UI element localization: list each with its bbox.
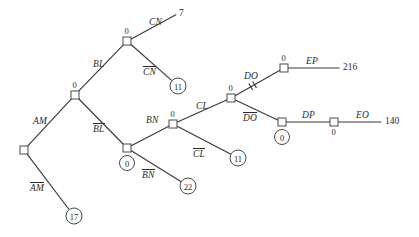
node-value-do: 0: [282, 54, 286, 63]
edge-label-cn-not: CN: [143, 66, 156, 77]
decision-node-root: [20, 146, 28, 154]
terminal-value-t11a: 11: [168, 83, 188, 92]
edge-label-do: DO: [244, 72, 258, 82]
tree-edge-bn-not: [131, 150, 181, 181]
edge-label-cn: CN: [149, 18, 162, 28]
decision-tree-diagram: AMAMBLBLCNCNBNBNCLCLDODOEPDPEO 00000000 …: [0, 0, 419, 237]
node-value-bn: 0: [171, 110, 175, 119]
node-value-blbar: 0: [117, 160, 137, 169]
edge-label-bl: BL: [93, 60, 105, 70]
node-value-dobar: 0: [272, 134, 292, 143]
tree-edge-bl-not: [78, 98, 124, 145]
edge-label-cl-not: CL: [193, 148, 205, 159]
edge-label-bn: BN: [146, 116, 159, 126]
decision-node-dp: [330, 118, 338, 126]
edge-label-do-not: DO: [243, 112, 257, 123]
edge-label-dp: DP: [302, 111, 315, 121]
edge-label-am: AM: [33, 117, 47, 127]
payoff-value-p216: 216: [343, 63, 357, 73]
terminal-value-t11b: 11: [228, 155, 248, 164]
edge-label-am-not: AM: [30, 182, 44, 193]
decision-node-cl: [227, 94, 235, 102]
node-value-dp: 0: [332, 128, 336, 137]
decision-node-bl: [123, 37, 131, 45]
decision-node-blbar: [123, 144, 131, 152]
terminal-circles-group: [66, 78, 290, 224]
terminal-value-t17: 17: [64, 213, 84, 222]
terminal-value-t22: 22: [178, 183, 198, 192]
edge-label-bl-not: BL: [93, 123, 105, 134]
decision-node-dobar: [278, 118, 286, 126]
decision-node-am: [71, 91, 79, 99]
prune-slash-mark: [249, 84, 252, 90]
edge-label-ep: EP: [306, 57, 318, 67]
node-value-bl: 0: [125, 27, 129, 36]
tree-edge-bn: [131, 126, 170, 146]
payoff-value-p140: 140: [385, 117, 399, 127]
payoff-value-p7: 7: [179, 9, 184, 19]
decision-node-do: [280, 64, 288, 72]
edges-group: [27, 15, 381, 209]
edge-label-bn-not: BN: [142, 169, 155, 180]
prune-slash-mark: [253, 82, 256, 88]
node-value-cl: 0: [229, 84, 233, 93]
node-value-am: 0: [73, 81, 77, 90]
edge-label-eo: EO: [356, 111, 369, 121]
decision-node-bn: [169, 120, 177, 128]
edge-label-cl: CL: [196, 102, 208, 112]
